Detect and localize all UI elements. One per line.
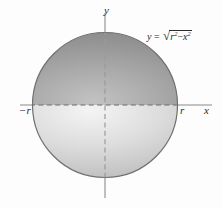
- positive-r-tick-label: r: [180, 105, 184, 116]
- radicand-second-exponent: 2: [187, 30, 190, 37]
- figure-container: y x −r r y = √r2−x2: [0, 0, 222, 208]
- y-axis-label: y: [104, 5, 109, 16]
- x-axis-label: x: [204, 105, 209, 116]
- equation-equals-sign: =: [154, 31, 160, 42]
- radical-group: √r2−x2: [162, 29, 192, 42]
- radical-sign-icon: √: [163, 29, 170, 42]
- radicand: r2−x2: [169, 30, 192, 42]
- equation-annotation: y = √r2−x2: [147, 29, 192, 42]
- negative-r-tick-label: −r: [19, 105, 31, 116]
- equation-lhs: y: [147, 31, 151, 42]
